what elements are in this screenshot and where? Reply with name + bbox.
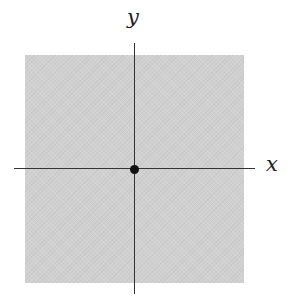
x-axis-label: x — [266, 154, 278, 175]
origin-dot-icon — [130, 165, 139, 174]
coordinate-diagram: y x — [0, 0, 297, 302]
y-axis-label: y — [127, 7, 139, 28]
